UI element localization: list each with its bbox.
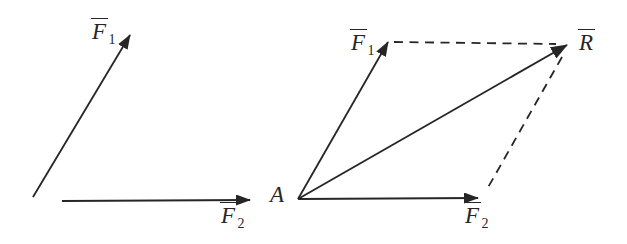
left-f1-label: F1 [91, 18, 116, 47]
right-resultant-vector-arrow [298, 45, 567, 199]
point-a-label: A [270, 183, 284, 206]
left-f1-vector-arrow [33, 35, 130, 197]
right-f1-vector-arrow [298, 42, 388, 199]
right-f2-vector-arrow [298, 198, 478, 199]
resultant-label: R [578, 29, 596, 58]
right-f1-label: F1 [350, 29, 375, 58]
vector-diagram-figure: F1 F2 A F1 R F2 [0, 0, 627, 244]
dashed-construction-line-right [486, 57, 562, 191]
right-f2-label: F2 [464, 202, 489, 231]
dashed-construction-line-top [394, 42, 556, 44]
left-f2-vector-arrow [62, 200, 250, 201]
left-f2-label: F2 [220, 202, 245, 231]
